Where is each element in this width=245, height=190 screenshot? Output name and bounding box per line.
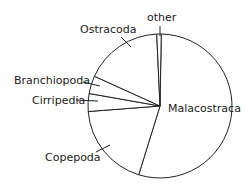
label-other: other xyxy=(147,12,176,23)
label-branchiopoda: Branchiopoda xyxy=(14,75,90,86)
label-malacostraca: Malacostraca xyxy=(168,103,241,114)
label-copepoda: Copepoda xyxy=(45,152,101,163)
label-ostracoda: Ostracoda xyxy=(80,24,136,35)
label-cirripedia: Cirripedia xyxy=(32,95,85,106)
